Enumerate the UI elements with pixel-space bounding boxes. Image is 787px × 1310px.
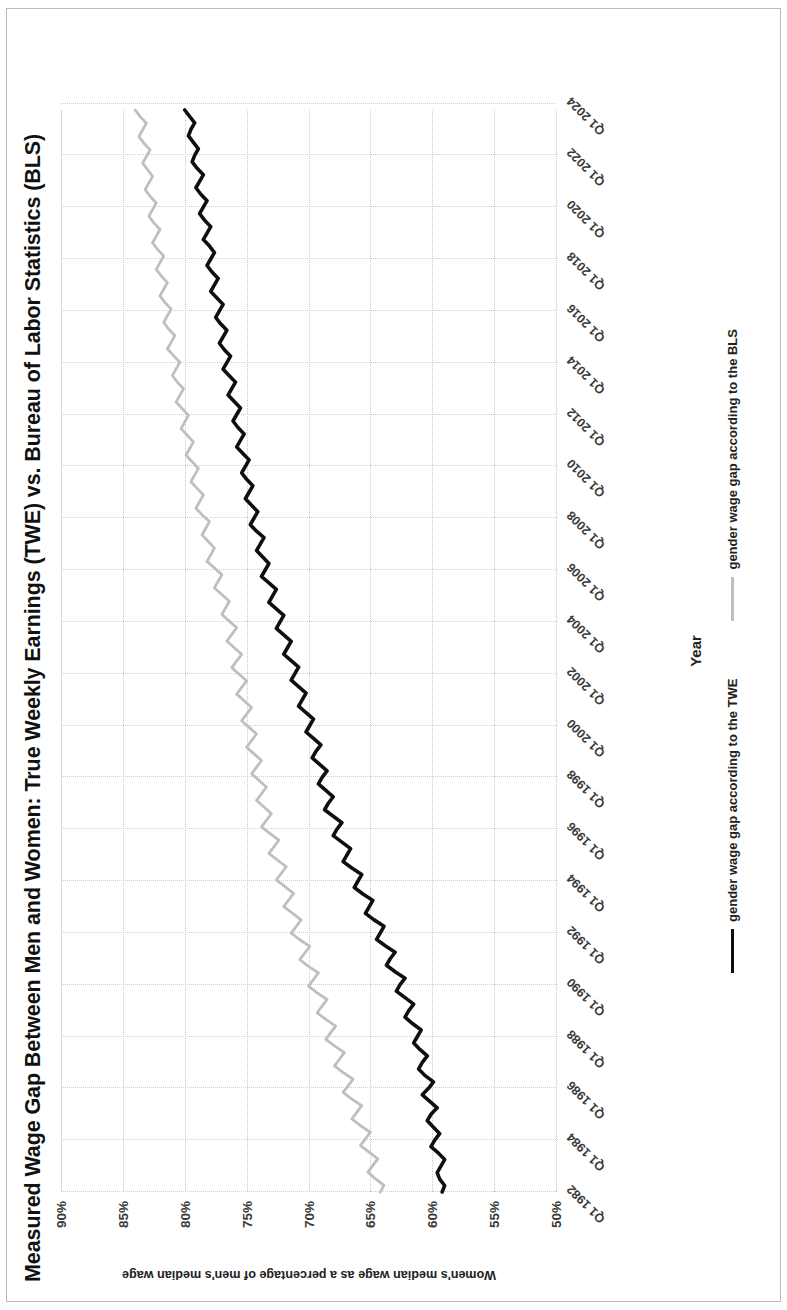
legend-item-bls: gender wage gap according to the BLS: [725, 329, 740, 621]
x-axis-tick-label: Q1 2008: [564, 508, 608, 552]
legend-swatch-twe: [731, 929, 734, 973]
legend-label-bls: gender wage gap according to the BLS: [725, 329, 740, 570]
x-axis-tick-label: Q1 1984: [564, 1130, 608, 1174]
y-axis-tick-label: 80%: [177, 1201, 192, 1228]
vertical-gridline: [61, 103, 556, 104]
x-axis-tick-label: Q1 2010: [564, 456, 608, 500]
y-axis-title: Women's median wage as a percentage of m…: [61, 1264, 556, 1286]
y-axis-tick-label: 65%: [362, 1201, 377, 1228]
x-axis-tick-label: Q1 2004: [564, 612, 608, 656]
x-axis-tick-label: Q1 2000: [564, 716, 608, 760]
chart-page: Measured Wage Gap Between Men and Women:…: [0, 0, 787, 1310]
y-axis-tick-label: 90%: [53, 1201, 68, 1228]
x-axis-tick-label: Q1 1986: [564, 1078, 608, 1122]
y-axis-tick-label: 85%: [115, 1201, 130, 1228]
x-axis-tick-label: Q1 2024: [564, 94, 608, 138]
series-line-bls: [135, 110, 384, 1192]
y-axis-tick-label: 55%: [486, 1201, 501, 1228]
legend: gender wage gap according to the TWE gen…: [725, 110, 740, 1192]
figure: Measured Wage Gap Between Men and Women:…: [9, 10, 779, 1300]
y-axis-tick-label: 70%: [301, 1201, 316, 1228]
x-axis-tick-label: Q1 2012: [564, 405, 608, 449]
x-axis-tick-label: Q1 1982: [564, 1182, 608, 1226]
y-axis-tick-label: 75%: [239, 1201, 254, 1228]
x-axis-tick-label: Q1 2016: [564, 301, 608, 345]
x-axis-tick-label: Q1 1994: [564, 871, 608, 915]
y-axis-title-text: Women's median wage as a percentage of m…: [121, 1268, 495, 1282]
x-axis-tick-label: Q1 2022: [564, 145, 608, 189]
y-axis-tick-label: 50%: [548, 1201, 563, 1228]
legend-swatch-bls: [731, 577, 734, 621]
x-axis-tick-label: Q1 2020: [564, 197, 608, 241]
x-axis-tick-label: Q1 1992: [564, 923, 608, 967]
legend-label-twe: gender wage gap according to the TWE: [725, 679, 740, 922]
x-axis-tick-label: Q1 2014: [564, 353, 608, 397]
x-axis-title: Year: [687, 110, 704, 1192]
x-axis-tick-label: Q1 1988: [564, 1027, 608, 1071]
x-axis-tick-label: Q1 2018: [564, 249, 608, 293]
x-axis-tick-label: Q1 1990: [564, 975, 608, 1019]
x-axis-tick-label: Q1 1996: [564, 819, 608, 863]
x-axis-tick-label: Q1 2006: [564, 560, 608, 604]
y-axis-tick-label: 60%: [424, 1201, 439, 1228]
figure-border: Measured Wage Gap Between Men and Women:…: [6, 8, 781, 1302]
x-axis-tick-label: Q1 1998: [564, 767, 608, 811]
rotated-figure-container: Measured Wage Gap Between Men and Women:…: [9, 10, 779, 1300]
x-axis-tick-label: Q1 2002: [564, 664, 608, 708]
legend-item-twe: gender wage gap according to the TWE: [725, 679, 740, 973]
series-lines: [61, 110, 556, 1192]
chart-title: Measured Wage Gap Between Men and Women:…: [21, 32, 46, 1282]
series-line-twe: [184, 110, 444, 1192]
plot-area: 90%85%80%75%70%65%60%55%50% Q1 1982Q1 19…: [61, 110, 556, 1192]
